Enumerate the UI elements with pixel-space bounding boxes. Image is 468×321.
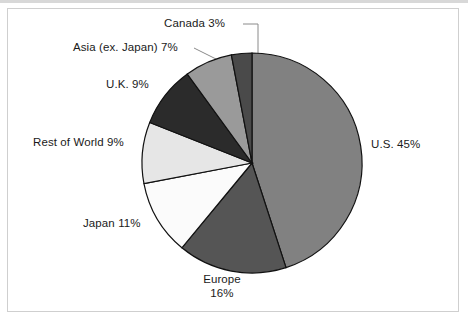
leader-line-canada: [243, 24, 258, 55]
pie-label-europe-name: Europe: [187, 272, 257, 286]
pie-chart-page: Canada 3% Asia (ex. Japan) 7% U.K. 9% Re…: [0, 0, 468, 321]
pie-label-uk: U.K. 9%: [106, 78, 149, 91]
pie-label-japan: Japan 11%: [83, 217, 141, 230]
pie-label-rest-of-world: Rest of World 9%: [33, 136, 124, 149]
pie-label-canada: Canada 3%: [164, 17, 225, 30]
pie-label-us: U.S. 45%: [371, 138, 420, 151]
pie-label-asia: Asia (ex. Japan) 7%: [73, 41, 178, 54]
pie-label-europe-value: 16%: [187, 286, 257, 300]
pie-label-europe: Europe 16%: [187, 272, 257, 300]
chart-area: Canada 3% Asia (ex. Japan) 7% U.K. 9% Re…: [0, 0, 468, 321]
